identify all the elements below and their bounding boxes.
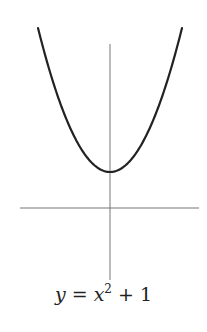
function-caption: y = x2 + 1 [0,283,207,305]
caption-equals: = [66,283,94,305]
caption-exponent: 2 [104,282,112,296]
caption-var: x [94,283,105,305]
caption-lhs: y [55,283,66,305]
caption-rest: + 1 [112,283,152,305]
